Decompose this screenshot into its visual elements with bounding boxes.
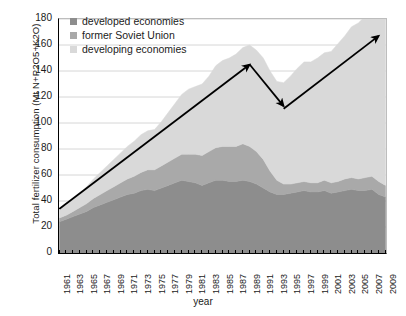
x-tickmark-1964: [79, 250, 80, 254]
x-tick-1985: 1985: [226, 274, 235, 294]
x-tickmark-1977: [167, 250, 168, 254]
x-tickmark-2001: [330, 250, 331, 254]
legend-label: former Soviet Union: [82, 30, 175, 41]
x-tickmark-1988: [242, 250, 243, 254]
x-tickmark-1973: [140, 250, 141, 254]
y-tick-180: 180: [22, 13, 52, 23]
x-tick-1969: 1969: [117, 274, 126, 294]
y-tick-40: 40: [22, 195, 52, 205]
y-axis-tick-labels: 020406080100120140160180: [22, 0, 52, 316]
x-tickmark-1974: [147, 250, 148, 254]
x-tick-1963: 1963: [76, 274, 85, 294]
x-tickmark-2004: [351, 250, 352, 254]
x-tick-1967: 1967: [103, 274, 112, 294]
x-tick-1977: 1977: [171, 274, 180, 294]
x-tickmark-1983: [208, 250, 209, 254]
x-tickmark-2002: [337, 250, 338, 254]
x-tick-1975: 1975: [158, 274, 167, 294]
x-tickmark-1976: [160, 250, 161, 254]
x-tick-1995: 1995: [293, 274, 302, 294]
x-tick-2007: 2007: [375, 274, 384, 294]
y-tick-140: 140: [22, 65, 52, 75]
x-tickmark-1984: [215, 250, 216, 254]
y-tick-160: 160: [22, 39, 52, 49]
x-tickmark-1991: [262, 250, 263, 254]
x-tick-1971: 1971: [130, 274, 139, 294]
legend-item-0: developed economies: [70, 14, 187, 28]
x-tick-1983: 1983: [212, 274, 221, 294]
x-tickmark-1968: [106, 250, 107, 254]
x-tick-1991: 1991: [266, 274, 275, 294]
x-tickmark-1962: [65, 250, 66, 254]
x-tickmark-1965: [86, 250, 87, 254]
x-tickmark-2007: [371, 250, 372, 254]
y-tick-20: 20: [22, 221, 52, 231]
x-tickmark-1992: [269, 250, 270, 254]
x-tickmark-1993: [276, 250, 277, 254]
x-tickmark-1966: [92, 250, 93, 254]
x-tickmark-1961: [59, 250, 60, 254]
x-tickmark-1999: [317, 250, 318, 254]
legend-item-1: former Soviet Union: [70, 28, 187, 42]
y-tick-120: 120: [22, 91, 52, 101]
x-tickmark-1985: [222, 250, 223, 254]
chart-legend: developed economiesformer Soviet Unionde…: [70, 14, 187, 56]
x-tickmark-1970: [120, 250, 121, 254]
x-tick-1989: 1989: [253, 274, 262, 294]
legend-label: developing economies: [82, 44, 187, 55]
x-tick-1961: 1961: [63, 274, 72, 294]
x-tickmark-1967: [99, 250, 100, 254]
x-tickmark-1978: [174, 250, 175, 254]
legend-swatch-icon: [70, 32, 77, 39]
x-tickmark-1980: [188, 250, 189, 254]
x-axis-title: year: [0, 296, 406, 307]
x-tickmark-1969: [113, 250, 114, 254]
legend-item-2: developing economies: [70, 42, 187, 56]
x-tickmark-1979: [181, 250, 182, 254]
x-tickmark-1963: [72, 250, 73, 254]
x-tickmark-1972: [133, 250, 134, 254]
x-tick-1993: 1993: [280, 274, 289, 294]
x-tick-2001: 2001: [334, 274, 343, 294]
legend-swatch-icon: [70, 46, 77, 53]
legend-label: developed economies: [82, 16, 184, 27]
x-tickmark-1994: [283, 250, 284, 254]
y-tick-100: 100: [22, 117, 52, 127]
x-tickmark-2005: [357, 250, 358, 254]
x-tickmark-1990: [255, 250, 256, 254]
x-tickmark-1987: [235, 250, 236, 254]
x-tickmark-2003: [344, 250, 345, 254]
x-tick-1997: 1997: [307, 274, 316, 294]
x-tick-2005: 2005: [361, 274, 370, 294]
x-tickmark-2006: [364, 250, 365, 254]
x-tickmark-1982: [201, 250, 202, 254]
x-tickmark-1981: [194, 250, 195, 254]
x-tick-2009: 2009: [389, 274, 398, 294]
y-tick-80: 80: [22, 143, 52, 153]
x-tick-2003: 2003: [348, 274, 357, 294]
legend-swatch-icon: [70, 18, 77, 25]
x-tickmark-1975: [154, 250, 155, 254]
x-tick-1979: 1979: [185, 274, 194, 294]
x-tickmark-1971: [126, 250, 127, 254]
x-tick-1999: 1999: [321, 274, 330, 294]
x-axis-tick-labels: 1961196319651967196919711973197519771979…: [58, 254, 385, 298]
x-tickmark-1998: [310, 250, 311, 254]
x-tick-1981: 1981: [198, 274, 207, 294]
x-tickmark-1989: [249, 250, 250, 254]
x-tickmark-1997: [303, 250, 304, 254]
x-tick-1973: 1973: [144, 274, 153, 294]
y-tick-60: 60: [22, 169, 52, 179]
x-tickmark-1995: [289, 250, 290, 254]
x-tick-1987: 1987: [239, 274, 248, 294]
x-tickmark-2000: [323, 250, 324, 254]
x-tick-1965: 1965: [90, 274, 99, 294]
fertilizer-consumption-chart: Total fertilizer consumption (Mt N+P2O5+…: [0, 0, 406, 316]
y-tick-0: 0: [22, 247, 52, 257]
x-tickmark-1986: [228, 250, 229, 254]
x-tickmark-2009: [385, 250, 386, 254]
x-tickmark-2008: [378, 250, 379, 254]
x-tickmark-1996: [296, 250, 297, 254]
